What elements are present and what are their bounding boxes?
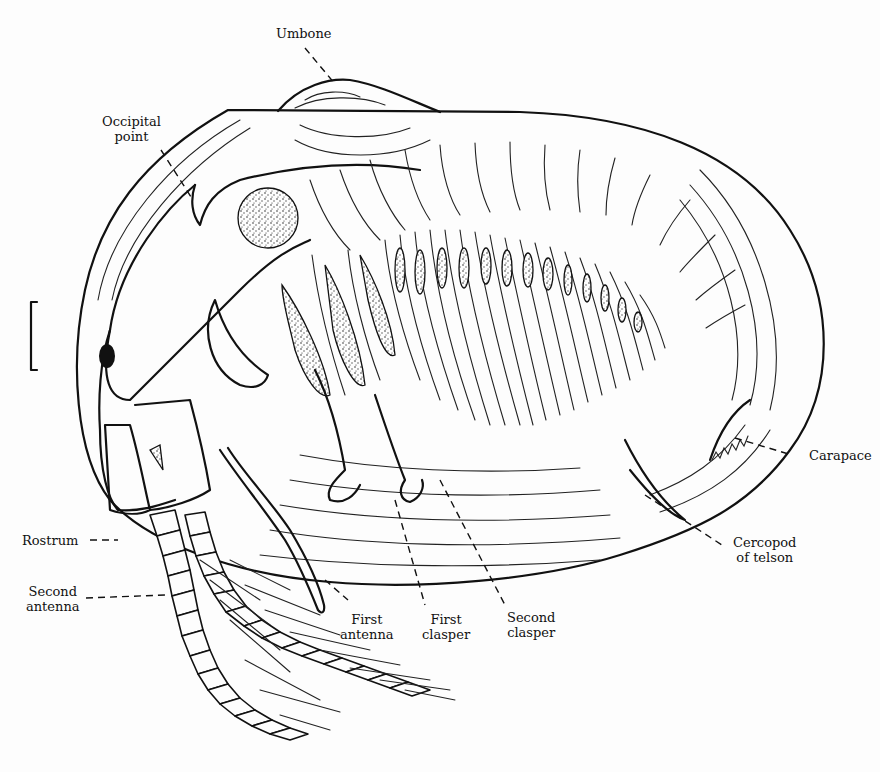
label-cercopod-line2: of telson bbox=[733, 550, 796, 565]
label-occipital-point: Occipital point bbox=[102, 114, 161, 144]
label-first-clasper-line1: First bbox=[422, 612, 470, 627]
label-second-antenna-line1: Second bbox=[26, 584, 80, 599]
label-cercopod-of-telson: Cercopod of telson bbox=[733, 535, 796, 565]
umbone bbox=[278, 80, 440, 155]
label-first-clasper: First clasper bbox=[422, 612, 470, 642]
scale-bar bbox=[31, 302, 37, 370]
label-rostrum: Rostrum bbox=[22, 533, 78, 548]
rostrum bbox=[105, 400, 210, 514]
label-second-antenna-line2: antenna bbox=[26, 599, 80, 614]
label-first-antenna-line1: First bbox=[340, 612, 394, 627]
label-first-antenna-line2: antenna bbox=[340, 627, 394, 642]
head bbox=[99, 165, 420, 511]
label-second-clasper: Second clasper bbox=[507, 610, 555, 640]
compound-eye bbox=[99, 344, 115, 368]
label-second-clasper-line2: clasper bbox=[507, 625, 555, 640]
telson bbox=[625, 400, 750, 520]
label-second-antenna: Second antenna bbox=[26, 584, 80, 614]
label-second-clasper-line1: Second bbox=[507, 610, 555, 625]
label-umbone: Umbone bbox=[276, 26, 332, 41]
dorsal-organ bbox=[238, 188, 298, 248]
second-antenna bbox=[150, 510, 455, 740]
label-cercopod-line1: Cercopod bbox=[733, 535, 796, 550]
label-carapace: Carapace bbox=[809, 448, 872, 463]
stippled-epipodites bbox=[395, 248, 642, 332]
thoracic-legs bbox=[282, 230, 665, 425]
label-first-antenna: First antenna bbox=[340, 612, 394, 642]
claspers bbox=[315, 370, 423, 502]
label-occipital-line2: point bbox=[102, 129, 161, 144]
label-occipital-line1: Occipital bbox=[102, 114, 161, 129]
label-first-clasper-line2: clasper bbox=[422, 627, 470, 642]
carapace bbox=[77, 110, 824, 585]
